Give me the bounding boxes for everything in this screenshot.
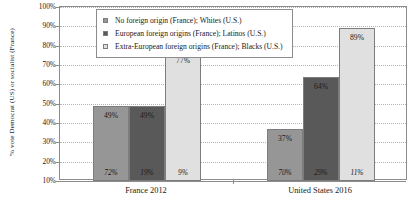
bar: 89%11% bbox=[339, 28, 375, 181]
y-axis-tick-label: 10% bbox=[22, 176, 56, 185]
legend-item: No foreign origin (France); Whites (U.S.… bbox=[103, 14, 283, 27]
chart-figure: % vote Democrat (US) or socialist (Franc… bbox=[0, 0, 417, 208]
y-axis-tick-label: 70% bbox=[22, 60, 56, 69]
x-axis-category-label: United States 2016 bbox=[240, 186, 400, 195]
legend-item: Extra-European foreign origins (France);… bbox=[103, 40, 283, 53]
legend-item: European foreign origins (France); Latin… bbox=[103, 27, 283, 40]
x-axis-category-label: France 2012 bbox=[66, 186, 226, 195]
bar-share-label: 29% bbox=[304, 168, 338, 177]
bar-share-label: 72% bbox=[94, 168, 128, 177]
y-axis-tick-label: 100% bbox=[22, 2, 56, 11]
bar: 49%72% bbox=[93, 106, 129, 181]
legend-label-series-2: European foreign origins (France); Latin… bbox=[115, 29, 266, 38]
x-axis-separator-tick bbox=[233, 180, 234, 184]
bar: 49%19% bbox=[129, 106, 165, 181]
chart-legend: No foreign origin (France); Whites (U.S.… bbox=[96, 9, 293, 58]
legend-swatch-series-2 bbox=[103, 31, 108, 36]
legend-swatch-series-1 bbox=[103, 18, 108, 23]
bar-share-label: 9% bbox=[166, 168, 200, 177]
legend-swatch-series-3 bbox=[103, 44, 108, 49]
bar-share-label: 70% bbox=[268, 168, 302, 177]
bar: 64%29% bbox=[303, 77, 339, 181]
bar-value-label: 89% bbox=[340, 33, 374, 42]
bar-share-label: 19% bbox=[130, 168, 164, 177]
y-axis-tick-label: 20% bbox=[22, 156, 56, 165]
y-axis-tick-label: 90% bbox=[22, 21, 56, 30]
y-axis-tick-label: 60% bbox=[22, 79, 56, 88]
bar: 77%9% bbox=[165, 51, 201, 181]
y-axis-tick-label: 50% bbox=[22, 98, 56, 107]
y-axis-tick-label: 40% bbox=[22, 118, 56, 127]
bar-value-label: 49% bbox=[130, 111, 164, 120]
bar-value-label: 37% bbox=[268, 134, 302, 143]
y-axis-tick-label: 80% bbox=[22, 40, 56, 49]
bar-value-label: 64% bbox=[304, 82, 338, 91]
legend-label-series-1: No foreign origin (France); Whites (U.S.… bbox=[115, 16, 242, 25]
legend-label-series-3: Extra-European foreign origins (France);… bbox=[115, 42, 283, 51]
bar: 37%70% bbox=[267, 129, 303, 181]
bar-share-label: 11% bbox=[340, 168, 374, 177]
y-axis-tick bbox=[56, 181, 60, 182]
y-axis-title: % vote Democrat (US) or socialist (Franc… bbox=[8, 0, 16, 188]
bar-value-label: 49% bbox=[94, 111, 128, 120]
y-axis-tick-label: 30% bbox=[22, 137, 56, 146]
